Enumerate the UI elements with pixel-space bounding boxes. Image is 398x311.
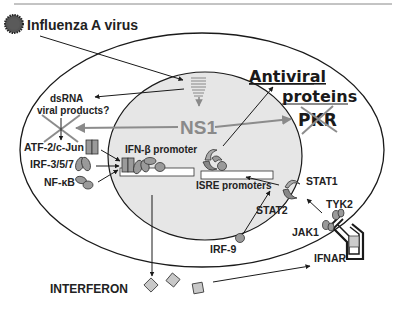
- antiviral-label: Antiviral: [249, 67, 326, 86]
- jak1-protein-icon: [323, 221, 335, 232]
- ifn-to-receptor-arrow: [213, 266, 310, 282]
- virus-icon: [5, 15, 23, 33]
- proteins-label: proteins: [282, 87, 357, 106]
- atf2-protein-icon: [86, 140, 98, 154]
- ifnar-label: IFNAR: [314, 252, 346, 264]
- isre-promoter-dna: [201, 171, 273, 179]
- stat1-label: STAT1: [306, 175, 338, 187]
- virus-label: Influenza A virus: [27, 17, 138, 33]
- ifnb-promoter-label: IFN-β promoter: [125, 144, 197, 155]
- irf357-label: IRF-3/5/7: [30, 158, 74, 170]
- viral-rna-segments: [191, 78, 206, 96]
- nfkb-protein-icon: [75, 175, 93, 189]
- irf9-label: IRF-9: [210, 243, 236, 255]
- interferon-label: INTERFERON: [50, 282, 128, 296]
- jak1-label: JAK1: [292, 226, 319, 238]
- nfkb-label: NF-κB: [44, 176, 75, 188]
- tyk2-label: TYK2: [326, 198, 353, 210]
- irf9-protein-icon: [236, 234, 245, 243]
- virus-entry-arrow: [40, 36, 183, 80]
- dsrna-label: dsRNA: [50, 93, 83, 104]
- ns1-label: NS1: [180, 117, 217, 138]
- jak-to-stat-arrow: [307, 199, 322, 213]
- viral-products-label: viral products?: [37, 105, 109, 116]
- irf357-protein-icon: [74, 156, 92, 172]
- isre-promoters-label: ISRE promoters: [196, 180, 272, 191]
- ns1-inhibition-arrow: [76, 127, 178, 128]
- influenza-interferon-diagram: Influenza A virus dsRNA viral products? …: [0, 0, 398, 311]
- tyk2-protein-icon: [333, 209, 345, 220]
- atf2-label: ATF-2/c-Jun: [24, 141, 84, 153]
- interferon-molecules-icon: [144, 273, 204, 294]
